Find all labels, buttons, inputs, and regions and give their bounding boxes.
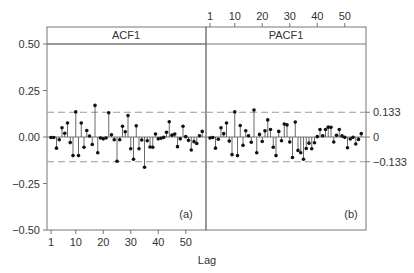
data-point: [189, 148, 193, 152]
data-point: [71, 154, 75, 158]
data-point: [258, 133, 262, 137]
data-point: [96, 151, 100, 155]
data-point: [247, 134, 251, 138]
top-x-tick-label: 40: [311, 10, 323, 22]
acf-stems: [47, 44, 206, 169]
data-point: [200, 130, 204, 134]
acf-pacf-chart: 0.500.250.00−0.25−0.50 11020304050 11020…: [0, 0, 414, 273]
data-point: [310, 147, 314, 151]
right-y-tick-label: −0.133: [373, 156, 407, 168]
top-x-tick-label: 30: [284, 10, 296, 22]
data-point: [285, 123, 289, 127]
data-point: [260, 140, 264, 144]
data-point: [145, 139, 149, 143]
top-x-tick-label: 10: [229, 10, 241, 22]
data-point: [154, 132, 158, 136]
data-point: [52, 136, 56, 140]
data-point: [219, 126, 223, 130]
right-y-tick-label: 0.133: [373, 106, 401, 118]
data-point: [307, 141, 311, 145]
data-point: [299, 151, 303, 155]
right-y-axis: 0.1330−0.133: [366, 106, 407, 167]
data-point: [222, 132, 226, 136]
data-point: [318, 128, 322, 132]
data-point: [151, 145, 155, 149]
data-point: [140, 138, 144, 142]
pacf-panel: PACF1 (b): [206, 27, 366, 230]
data-point: [121, 124, 125, 128]
data-point: [211, 136, 215, 140]
data-point: [123, 130, 127, 134]
data-point: [134, 124, 138, 128]
data-point: [88, 134, 92, 138]
data-point: [280, 139, 284, 143]
data-point: [266, 118, 270, 122]
data-point: [244, 129, 248, 133]
data-point: [337, 128, 341, 132]
data-point: [329, 126, 333, 130]
data-point: [343, 136, 347, 140]
x-tick-label: 30: [125, 236, 137, 248]
x-tick-label: 40: [152, 236, 164, 248]
x-tick-label: 50: [180, 236, 192, 248]
data-point: [302, 158, 306, 162]
y-tick-label: 0.25: [19, 85, 40, 97]
right-y-tick-label: 0: [373, 131, 379, 143]
data-point: [66, 121, 70, 125]
data-point: [167, 120, 171, 124]
data-point: [216, 137, 220, 141]
y-tick-label: 0.50: [19, 38, 40, 50]
data-point: [82, 145, 86, 149]
pacf-panel-title: PACF1: [269, 29, 304, 41]
top-x-tick-label: 50: [339, 10, 351, 22]
data-point: [296, 149, 300, 153]
left-y-axis: 0.500.250.00−0.25−0.50: [12, 38, 47, 236]
data-point: [354, 142, 358, 146]
data-point: [173, 132, 177, 136]
data-point: [195, 142, 199, 146]
data-point: [230, 153, 234, 157]
data-point: [238, 124, 242, 128]
data-point: [74, 110, 78, 114]
data-point: [269, 128, 273, 132]
data-point: [357, 138, 361, 142]
data-point: [291, 156, 295, 160]
pacf-stems: [206, 108, 366, 162]
data-point: [162, 136, 166, 140]
y-tick-label: −0.50: [12, 224, 40, 236]
data-point: [178, 137, 182, 141]
data-point: [115, 159, 119, 163]
data-point: [60, 126, 64, 130]
data-point: [110, 133, 114, 137]
data-point: [236, 154, 240, 158]
data-point: [107, 111, 111, 115]
data-point: [132, 158, 136, 162]
data-point: [55, 146, 59, 150]
acf-panel-title: ACF1: [112, 29, 140, 41]
data-point: [233, 110, 237, 114]
data-point: [255, 151, 259, 155]
data-point: [112, 138, 116, 142]
top-x-tick-label: 20: [256, 10, 268, 22]
data-point: [176, 145, 180, 149]
data-point: [304, 147, 308, 151]
data-point: [359, 132, 363, 136]
data-point: [293, 120, 297, 124]
data-point: [214, 146, 218, 150]
data-point: [324, 128, 328, 132]
data-point: [288, 140, 292, 144]
acf-panel: ACF1 (a): [47, 27, 206, 230]
data-point: [118, 138, 122, 142]
data-point: [271, 145, 275, 149]
y-tick-label: 0.00: [19, 131, 40, 143]
data-point: [77, 154, 81, 158]
y-tick-label: −0.25: [12, 178, 40, 190]
data-point: [274, 154, 278, 158]
top-x-axis: 11020304050: [207, 10, 351, 27]
data-point: [184, 135, 188, 139]
data-point: [126, 114, 130, 118]
top-x-tick-label: 1: [207, 10, 213, 22]
data-point: [198, 134, 202, 138]
data-point: [241, 144, 245, 148]
data-point: [315, 135, 319, 139]
